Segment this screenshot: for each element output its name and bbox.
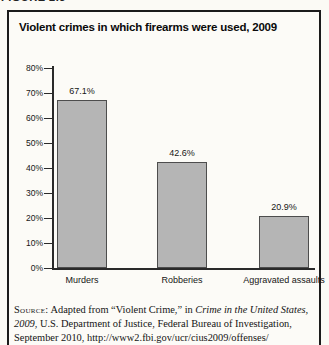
y-tick-label: 30%: [11, 188, 43, 198]
source-segment: 2009: [14, 318, 35, 329]
y-tick-mark: [44, 243, 52, 244]
y-tick-label: 10%: [11, 238, 43, 248]
bar-robberies: [157, 162, 207, 269]
bar-value-label: 42.6%: [152, 148, 212, 158]
figure-label-clipped: FIGURE 2.3: [1, 0, 121, 5]
y-tick-label: 60%: [11, 113, 43, 123]
x-axis-line: [52, 268, 315, 270]
source-line: Source: Adapted from “Violent Crime,” in…: [14, 303, 320, 317]
bar-value-label: 20.9%: [254, 202, 314, 212]
source-segment: Source:: [14, 304, 49, 315]
bar-murders: [57, 100, 107, 268]
y-tick-mark: [44, 93, 52, 94]
source-segment: September 2010, http://www2.fbi.gov/ucr/…: [14, 332, 269, 343]
y-tick-mark: [44, 68, 52, 69]
y-tick-label: 0%: [11, 263, 43, 273]
category-label: Murders: [40, 275, 124, 287]
figure-label: FIGURE 2.3: [1, 0, 121, 3]
y-tick-mark: [44, 143, 52, 144]
y-tick-mark: [44, 118, 52, 119]
y-tick-label: 50%: [11, 138, 43, 148]
category-label: Aggravated assaults: [242, 275, 326, 287]
source-line: 2009, U.S. Department of Justice, Federa…: [14, 317, 320, 331]
y-tick-mark: [44, 268, 52, 269]
y-tick-mark: [44, 218, 52, 219]
source-segment: Crime in the United States,: [195, 304, 308, 315]
y-tick-label: 70%: [11, 88, 43, 98]
y-tick-mark: [44, 193, 52, 194]
source-segment: , U.S. Department of Justice, Federal Bu…: [35, 318, 292, 329]
bar-aggravated-assaults: [259, 216, 309, 268]
bar-value-label: 67.1%: [52, 86, 112, 96]
bar-chart: 0%10%20%30%40%50%60%70%80%67.1%Murders42…: [9, 12, 319, 345]
chart-panel: Violent crimes in which firearms were us…: [7, 10, 321, 345]
source-segment: Adapted from “Violent Crime,” in: [49, 304, 196, 315]
source-line: September 2010, http://www2.fbi.gov/ucr/…: [14, 331, 320, 345]
y-tick-label: 20%: [11, 213, 43, 223]
y-tick-mark: [44, 168, 52, 169]
y-tick-label: 80%: [11, 63, 43, 73]
category-label: Robberies: [140, 275, 224, 287]
y-tick-label: 40%: [11, 163, 43, 173]
y-axis-line: [52, 66, 54, 268]
source-note: Source: Adapted from “Violent Crime,” in…: [14, 303, 320, 344]
